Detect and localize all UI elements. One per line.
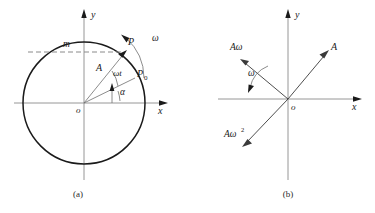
point-p0-subscript: 0 — [144, 74, 148, 82]
panel-a-caption: (a) — [73, 189, 83, 199]
velocity-label-b: Aω — [229, 42, 243, 52]
omega-t-label: ωt — [113, 68, 122, 78]
point-p0-label: P 0 — [136, 68, 148, 82]
acceleration-label-b: Aω 2 — [223, 126, 244, 139]
acceleration-exponent: 2 — [241, 126, 244, 133]
panel-a-axis-y-label: y — [90, 9, 96, 20]
physics-figure: y x o m P P 0 A ωt α ω (a) — [0, 0, 375, 213]
svg-text:Aω: Aω — [223, 129, 237, 139]
initial-radius-line — [84, 78, 135, 103]
alpha-reference-tick — [110, 83, 115, 103]
velocity-vector-b — [240, 59, 288, 99]
figure-canvas: y x o m P P 0 A ωt α ω (a) — [0, 0, 375, 213]
mass-label: m — [63, 39, 70, 49]
panel-b-y-axis — [285, 9, 290, 180]
panel-a: y x o m P P 0 A ωt α ω (a) — [14, 9, 168, 199]
displacement-label-b: A — [330, 41, 338, 52]
panel-b-caption: (b) — [283, 189, 294, 199]
point-p-label: P — [127, 36, 134, 47]
alpha-label: α — [120, 87, 126, 97]
panel-b-axis-y-label: y — [294, 9, 300, 20]
panel-b-origin-label: o — [291, 102, 296, 112]
acceleration-vector-b — [242, 99, 288, 147]
panel-b-axis-x-label: x — [351, 101, 357, 112]
panel-a-axis-x-label: x — [157, 105, 163, 116]
omega-label-b: ω — [248, 68, 255, 78]
panel-a-y-axis — [81, 9, 86, 180]
svg-text:P: P — [136, 68, 143, 79]
panel-b: y x o A Aω Aω 2 ω (b) — [218, 9, 362, 199]
amplitude-label-a: A — [95, 62, 103, 73]
displacement-vector-b — [288, 50, 329, 99]
omega-label-a: ω — [152, 33, 159, 43]
panel-a-origin-label: o — [76, 105, 81, 115]
